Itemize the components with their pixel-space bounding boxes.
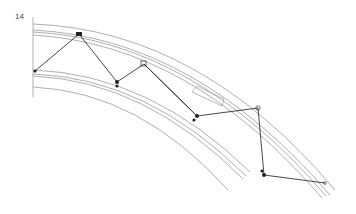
node (262, 173, 266, 177)
diagonal-bracing (35, 34, 325, 183)
truss-nodes (33, 32, 326, 184)
outer-chord (33, 24, 335, 198)
node (260, 169, 263, 172)
inner-chord (33, 70, 250, 190)
node (33, 69, 36, 72)
node (115, 80, 119, 84)
node (115, 84, 118, 87)
truss-diagram (0, 0, 356, 214)
node (76, 32, 82, 36)
node (195, 114, 199, 118)
node (192, 118, 195, 121)
